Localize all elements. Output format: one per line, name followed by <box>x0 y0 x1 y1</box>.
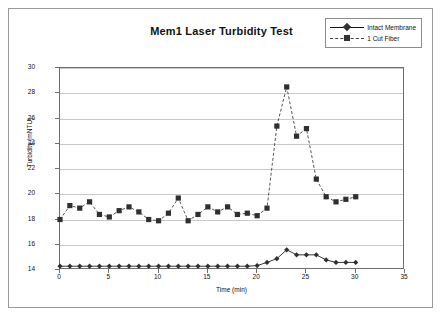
x-axis-tick-label: 5 <box>98 273 118 280</box>
data-point-marker <box>117 264 122 269</box>
data-point-marker <box>107 264 112 269</box>
data-point-marker <box>343 260 348 265</box>
data-point-marker <box>146 217 151 222</box>
chart-frame: Mem1 Laser Turbidity Test Intact Membran… <box>8 8 433 308</box>
data-point-marker <box>67 264 72 269</box>
x-axis-tick-label: 30 <box>345 273 365 280</box>
legend-label: 1 Cut Fiber <box>367 35 399 42</box>
data-point-marker <box>166 211 171 216</box>
y-axis-tick-label: 24 <box>15 139 35 146</box>
y-axis-tick-label: 26 <box>15 114 35 121</box>
data-point-marker <box>205 264 210 269</box>
data-point-marker <box>87 264 92 269</box>
data-point-marker <box>117 208 122 213</box>
data-point-marker <box>107 214 112 219</box>
data-point-marker <box>195 212 200 217</box>
plot-area <box>59 67 404 269</box>
data-point-marker <box>255 263 260 268</box>
series-layer <box>60 68 405 270</box>
y-axis-tick-label: 14 <box>15 265 35 272</box>
data-point-marker <box>264 260 269 265</box>
data-point-marker <box>304 126 309 131</box>
data-point-marker <box>136 264 141 269</box>
legend-label: Intact Membrane <box>367 24 416 31</box>
data-point-marker <box>205 204 210 209</box>
chart-area: Mem1 Laser Turbidity Test Intact Membran… <box>9 9 434 309</box>
data-point-marker <box>126 204 131 209</box>
data-point-marker <box>284 84 289 89</box>
data-point-marker <box>166 264 171 269</box>
data-point-marker <box>264 206 269 211</box>
data-point-marker <box>304 252 309 257</box>
x-axis-label: Time (min) <box>59 286 404 293</box>
data-point-marker <box>324 257 329 262</box>
data-point-marker <box>97 212 102 217</box>
data-point-marker <box>77 264 82 269</box>
data-point-marker <box>186 218 191 223</box>
data-point-marker <box>156 218 161 223</box>
data-point-marker <box>156 264 161 269</box>
y-axis-tick-label: 18 <box>15 215 35 222</box>
data-point-marker <box>186 264 191 269</box>
y-axis-tick-label: 30 <box>15 63 35 70</box>
x-axis-tick-label: 35 <box>394 273 414 280</box>
x-axis-tick-label: 20 <box>246 273 266 280</box>
data-point-marker <box>353 260 358 265</box>
data-point-marker <box>146 264 151 269</box>
data-point-marker <box>57 264 62 269</box>
data-point-marker <box>195 264 200 269</box>
data-point-marker <box>343 197 348 202</box>
y-axis-tick-label: 16 <box>15 240 35 247</box>
legend-item-1-cut-fiber: 1 Cut Fiber <box>330 33 416 44</box>
data-point-marker <box>294 252 299 257</box>
x-axis-tick-label: 0 <box>49 273 69 280</box>
series-line-1-cut-fiber <box>60 87 356 221</box>
data-point-marker <box>225 264 230 269</box>
data-point-marker <box>67 203 72 208</box>
data-point-marker <box>87 199 92 204</box>
chart-legend: Intact Membrane 1 Cut Fiber <box>325 18 422 48</box>
data-point-marker <box>136 209 141 214</box>
data-point-marker <box>57 217 62 222</box>
data-point-marker <box>333 199 338 204</box>
x-axis-tick-label: 15 <box>197 273 217 280</box>
data-point-marker <box>255 213 260 218</box>
legend-swatch-line-solid-diamond <box>330 23 364 32</box>
data-point-marker <box>126 264 131 269</box>
data-point-marker <box>274 123 279 128</box>
data-point-marker <box>235 212 240 217</box>
y-axis-tick-label: 22 <box>15 164 35 171</box>
data-point-marker <box>245 264 250 269</box>
y-axis-tick-label: 20 <box>15 189 35 196</box>
data-point-marker <box>77 206 82 211</box>
data-point-marker <box>324 194 329 199</box>
legend-swatch-line-dashed-square <box>330 34 364 43</box>
data-point-marker <box>333 260 338 265</box>
data-point-marker <box>314 252 319 257</box>
data-point-marker <box>225 204 230 209</box>
x-axis-tick-label: 25 <box>295 273 315 280</box>
data-point-marker <box>294 134 299 139</box>
data-point-marker <box>176 195 181 200</box>
data-point-marker <box>176 264 181 269</box>
data-point-marker <box>245 211 250 216</box>
x-axis-tick-label: 10 <box>148 273 168 280</box>
data-point-marker <box>215 264 220 269</box>
y-axis-tick-label: 28 <box>15 88 35 95</box>
legend-item-intact-membrane: Intact Membrane <box>330 22 416 33</box>
data-point-marker <box>314 177 319 182</box>
data-point-marker <box>97 264 102 269</box>
data-point-marker <box>353 194 358 199</box>
data-point-marker <box>215 209 220 214</box>
data-point-marker <box>235 264 240 269</box>
